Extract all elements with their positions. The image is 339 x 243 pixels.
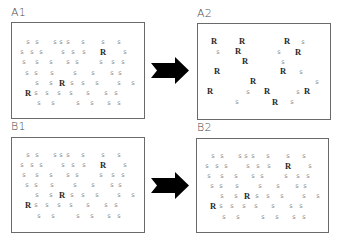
letter-s-b1: s — [59, 152, 62, 159]
letter-s-b1: s — [73, 182, 76, 189]
letter-s-a1: s — [121, 59, 124, 66]
letter-s-a1: s — [75, 59, 78, 66]
letter-s-a2: s — [277, 49, 280, 56]
letter-r-a1: R — [25, 89, 31, 98]
letter-s-b1: s — [86, 202, 89, 209]
letter-s-a1: s — [34, 70, 37, 77]
letter-s-a1: s — [37, 100, 40, 107]
letter-s-b2: s — [299, 203, 302, 210]
letter-s-b2: s — [219, 183, 222, 190]
letter-s-a1: s — [57, 90, 60, 97]
letter-s-b1: s — [26, 152, 29, 159]
letter-s-a1: s — [81, 39, 84, 46]
panel-label-a2: A2 — [197, 8, 212, 19]
letter-s-a1: s — [66, 39, 69, 46]
letter-s-a1: s — [110, 70, 113, 77]
arrow-b-shape — [151, 172, 189, 199]
letter-s-a1: s — [107, 100, 110, 107]
letter-s-b2: s — [224, 163, 227, 170]
letter-s-b2: s — [302, 153, 305, 160]
letter-s-b2: s — [289, 203, 292, 210]
letter-s-b1: s — [70, 192, 73, 199]
letter-s-a1: s — [35, 80, 38, 87]
letter-s-a1: s — [35, 59, 38, 66]
letter-r-a2: R — [284, 37, 290, 46]
letter-s-a1: s — [101, 39, 104, 46]
letter-s-b1: s — [35, 172, 38, 179]
letter-s-a1: s — [61, 49, 64, 56]
letter-r-a1: R — [59, 79, 65, 88]
letter-s-b2: s — [276, 183, 279, 190]
letter-s-b2: s — [251, 173, 254, 180]
letter-s-b2: s — [220, 173, 223, 180]
letter-s-b1: s — [91, 182, 94, 189]
letter-s-b2: s — [235, 183, 238, 190]
letter-s-b1: s — [61, 162, 64, 169]
letter-s-a1: s — [45, 90, 48, 97]
letter-r-b1: R — [59, 191, 65, 200]
letter-s-a1: s — [99, 59, 102, 66]
letter-r-a2: R — [304, 87, 310, 96]
panel-label-b1: B1 — [11, 121, 26, 132]
panel-label-a1: A1 — [11, 7, 26, 18]
letter-s-b1: s — [49, 192, 52, 199]
letter-s-a1: s — [53, 39, 56, 46]
letter-r-a2: R — [239, 37, 245, 46]
letter-s-b2: s — [271, 203, 274, 210]
letter-s-b1: s — [30, 162, 33, 169]
letter-s-a1: s — [118, 70, 121, 77]
letter-r-a2: R — [272, 98, 278, 107]
letter-s-a1: s — [95, 80, 98, 87]
letter-s-b1: s — [118, 182, 121, 189]
letter-r-b2: R — [244, 192, 250, 201]
letter-s-b1: s — [101, 152, 104, 159]
letter-s-a2: s — [235, 99, 238, 106]
letter-s-a2: s — [315, 79, 318, 86]
letter-s-a1: s — [22, 59, 25, 66]
letter-s-b1: s — [69, 202, 72, 209]
letter-s-a1: s — [25, 70, 28, 77]
letter-s-a1: s — [91, 70, 94, 77]
letter-s-b1: s — [123, 162, 126, 169]
letter-s-b1: s — [117, 152, 120, 159]
letter-s-b2: s — [256, 163, 259, 170]
letter-s-b1: s — [25, 182, 28, 189]
letter-s-b2: s — [222, 214, 225, 221]
letter-s-a1: s — [26, 39, 29, 46]
letter-s-b2: s — [230, 203, 233, 210]
letter-s-b2: s — [234, 173, 237, 180]
letter-s-a1: s — [117, 80, 120, 87]
letter-r-b2: R — [285, 162, 291, 171]
letter-s-b1: s — [57, 202, 60, 209]
letter-s-b1: s — [76, 213, 79, 220]
letter-s-b2: s — [275, 214, 278, 221]
letter-s-a1: s — [71, 49, 74, 56]
arrow-right-icon — [151, 172, 190, 199]
letter-s-b2: s — [255, 193, 258, 200]
letter-s-b1: s — [66, 152, 69, 159]
letter-s-b1: s — [117, 213, 120, 220]
letter-r-b1: R — [100, 161, 106, 170]
letter-s-b1: s — [22, 172, 25, 179]
letter-s-b1: s — [99, 172, 102, 179]
letter-s-b1: s — [75, 172, 78, 179]
letter-s-b1: s — [131, 192, 134, 199]
letter-s-a1: s — [117, 100, 120, 107]
letter-r-a2: R — [207, 87, 213, 96]
letter-s-a1: s — [70, 80, 73, 87]
letter-s-a1: s — [123, 49, 126, 56]
letter-s-a2: s — [301, 39, 304, 46]
letter-s-b1: s — [107, 213, 110, 220]
letter-s-b1: s — [45, 202, 48, 209]
letter-s-b2: s — [267, 163, 270, 170]
letter-s-b2: s — [306, 173, 309, 180]
letter-s-b2: s — [286, 153, 289, 160]
letter-s-a1: s — [117, 39, 120, 46]
letter-s-b1: s — [82, 162, 85, 169]
letter-s-b2: s — [254, 203, 257, 210]
letter-s-b1: s — [35, 152, 38, 159]
letter-s-b1: s — [49, 172, 52, 179]
letter-s-b1: s — [34, 182, 37, 189]
letter-s-a1: s — [131, 80, 134, 87]
letter-s-a2: s — [281, 59, 284, 66]
